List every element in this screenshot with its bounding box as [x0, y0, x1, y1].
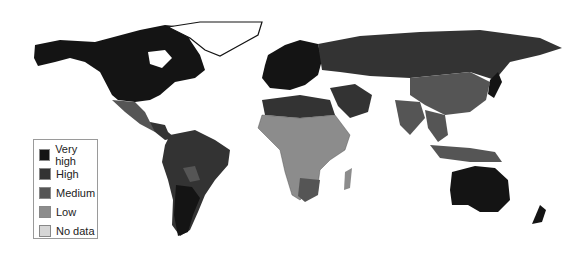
swatch-medium — [39, 187, 51, 199]
region-indonesia — [430, 145, 502, 162]
legend-item-very-high: Very high — [39, 145, 97, 164]
legend-label: Low — [56, 206, 76, 218]
region-middle-east — [330, 84, 372, 118]
region-north-america — [34, 25, 205, 102]
legend-label: Medium — [56, 187, 95, 199]
legend-label: No data — [56, 225, 95, 237]
legend-label: Very high — [55, 143, 97, 167]
region-europe — [262, 40, 322, 90]
swatch-very-high — [39, 149, 50, 161]
swatch-high — [39, 168, 51, 180]
legend-item-medium: Medium — [39, 183, 97, 202]
region-southern-africa — [298, 178, 320, 202]
region-north-africa — [262, 95, 335, 118]
region-south-america — [162, 130, 230, 236]
legend-item-low: Low — [39, 202, 97, 221]
legend-label: High — [56, 168, 79, 180]
region-se-asia — [425, 110, 448, 142]
swatch-low — [39, 206, 51, 218]
region-new-zealand — [532, 205, 546, 224]
region-madagascar — [344, 168, 352, 190]
region-south-asia — [395, 100, 425, 135]
region-australia — [450, 166, 510, 212]
map-legend: Very high High Medium Low No data — [33, 139, 98, 239]
swatch-no-data — [39, 225, 51, 237]
legend-item-no-data: No data — [39, 221, 97, 240]
legend-item-high: High — [39, 164, 97, 183]
region-russia — [318, 30, 562, 80]
